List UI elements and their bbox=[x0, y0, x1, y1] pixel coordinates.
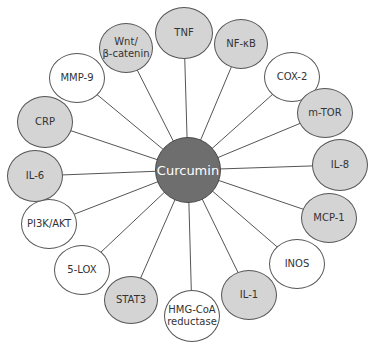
node-label: Wnt/ β-catenin bbox=[102, 36, 149, 60]
node-label: 5-LOX bbox=[67, 264, 96, 276]
node-label: PI3K/AKT bbox=[27, 218, 71, 230]
node-il-8: IL-8 bbox=[312, 139, 368, 191]
node-il-1: IL-1 bbox=[221, 270, 277, 320]
node-label: NF-κB bbox=[226, 38, 256, 50]
node-label: CRP bbox=[35, 116, 55, 128]
node-label: HMG-CoA reductase bbox=[167, 304, 217, 328]
node-mmp-9: MMP-9 bbox=[49, 53, 105, 103]
node-hmg-coa: HMG-CoA reductase bbox=[164, 290, 220, 342]
node-inos: INOS bbox=[269, 239, 325, 289]
node-m-tor: m-TOR bbox=[297, 88, 353, 138]
node-label: COX-2 bbox=[277, 71, 308, 83]
node-tnf: TNF bbox=[155, 7, 213, 59]
node-wnt: Wnt/ β-catenin bbox=[99, 23, 153, 73]
node-stat3: STAT3 bbox=[104, 276, 158, 324]
node-label: MMP-9 bbox=[60, 72, 93, 84]
node-5-lox: 5-LOX bbox=[54, 245, 110, 295]
node-label: MCP-1 bbox=[313, 212, 344, 224]
node-crp: CRP bbox=[17, 96, 73, 148]
node-label: STAT3 bbox=[116, 294, 146, 306]
center-node-curcumin: Curcumin bbox=[155, 137, 221, 203]
node-pi3k-akt: PI3K/AKT bbox=[21, 199, 77, 249]
node-label: IL-8 bbox=[331, 159, 349, 171]
node-nf-kb: NF-κB bbox=[214, 19, 268, 69]
node-label: m-TOR bbox=[308, 107, 341, 119]
center-label: Curcumin bbox=[157, 163, 219, 178]
curcumin-target-diagram: TNFNF-κBCOX-2m-TORIL-8MCP-1INOSIL-1HMG-C… bbox=[0, 0, 374, 344]
node-label: INOS bbox=[285, 258, 310, 270]
node-label: IL-1 bbox=[240, 289, 258, 301]
node-mcp-1: MCP-1 bbox=[301, 193, 357, 243]
node-il-6: IL-6 bbox=[7, 150, 63, 202]
node-label: IL-6 bbox=[26, 170, 44, 182]
node-label: TNF bbox=[174, 27, 193, 39]
